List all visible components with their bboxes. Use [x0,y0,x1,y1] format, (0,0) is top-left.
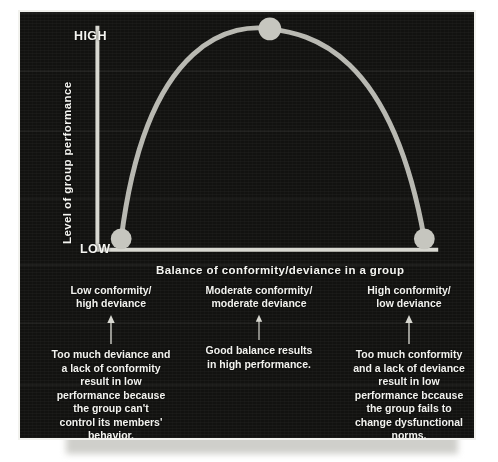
caption-body-line: change dysfunctional [355,416,463,428]
up-arrow-icon [104,314,118,344]
caption-title-line2: moderate deviance [211,297,306,309]
caption-body-line: behavior. [88,429,134,440]
caption-body: Too much deviance and a lack of conformi… [52,348,171,440]
caption-body-line: the group can't [73,402,148,414]
caption-high-conformity: High conformity/ low deviance Too much c… [340,284,476,440]
caption-title-line1: High conformity/ [367,284,450,296]
chart-panel: Level of group performance HIGH LOW Bala… [18,10,476,440]
caption-title-line2: high deviance [76,297,146,309]
caption-body-line: in high performance. [207,358,311,370]
caption-body-line: the group fails to [366,402,451,414]
up-arrow-icon [252,314,266,340]
caption-body-line: control its members' [60,416,163,428]
caption-low-conformity: Low conformity/ high deviance Too much d… [42,284,180,440]
caption-row: Low conformity/ high deviance Too much d… [20,284,476,440]
caption-title: Low conformity/ high deviance [70,284,151,310]
y-axis-title: Level of group performance [61,82,73,244]
caption-title-line1: Moderate conformity/ [206,284,313,296]
caption-body-line: result in low [80,375,141,387]
caption-title: High conformity/ low deviance [367,284,450,310]
caption-moderate-conformity: Moderate conformity/ moderate deviance G… [190,284,328,440]
up-arrow-icon [402,314,416,344]
caption-body-line: a lack of conformity [61,362,160,374]
caption-title-line2: low deviance [376,297,441,309]
caption-body: Good balance results in high performance… [206,344,313,371]
caption-body-line: Good balance results [206,344,313,356]
caption-title-line1: Low conformity/ [70,284,151,296]
x-axis-title: Balance of conformity/deviance in a grou… [156,264,404,276]
caption-body-line: Too much deviance and [52,348,171,360]
caption-body-line: performance because [57,389,166,401]
y-axis-tick-high: HIGH [74,29,107,43]
caption-body-line: Too much conformity [356,348,463,360]
caption-body: Too much conformity and a lack of devian… [353,348,464,440]
caption-body-line: performance bccause [355,389,464,401]
marker-moderate-conformity[interactable] [258,17,281,40]
caption-body-line: result in low [378,375,439,387]
caption-body-line: norms. [391,429,426,440]
caption-body-line: and a lack of deviance [353,362,464,374]
figure-container: Level of group performance HIGH LOW Bala… [0,0,498,462]
caption-title: Moderate conformity/ moderate deviance [206,284,313,310]
marker-low-conformity[interactable] [111,228,132,249]
marker-high-conformity[interactable] [414,228,435,249]
performance-curve [121,28,424,239]
y-axis-tick-low: LOW [80,242,110,256]
